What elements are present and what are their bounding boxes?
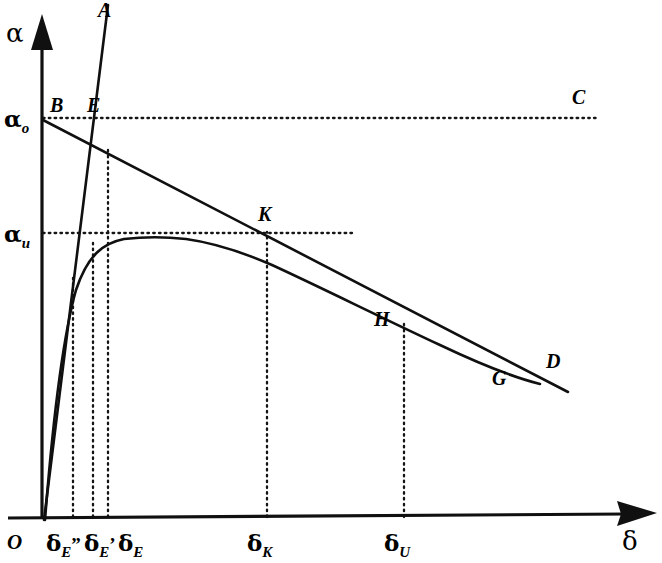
x-tick-delta-E-base: δ xyxy=(118,529,133,556)
x-tick-delta-E-prime-base: δ xyxy=(84,529,99,556)
point-label-G: G xyxy=(492,367,507,389)
y-tick-alpha-0: αo xyxy=(4,105,29,136)
alpha-axis-arrow-icon xyxy=(31,14,53,50)
y-tick-alpha-0-sub: o xyxy=(22,120,30,136)
x-tick-delta-E: δE xyxy=(118,529,143,560)
line-BD-descending xyxy=(43,120,568,392)
x-tick-delta-E-sub: E xyxy=(132,544,143,560)
rising-saturating-curve xyxy=(45,237,540,520)
delta-axis-line xyxy=(8,514,626,518)
point-label-B: B xyxy=(49,94,63,116)
x-tick-delta-E-double-prime-sub: E xyxy=(60,544,71,560)
diagram-svg: α δ O αo αu δE” δE’ δE δK δU A B E C K H… xyxy=(0,0,662,563)
point-label-E: E xyxy=(86,94,100,116)
y-tick-alpha-0-base: α xyxy=(4,105,22,132)
figure-canvas: α δ O αo αu δE” δE’ δE δK δU A B E C K H… xyxy=(0,0,662,563)
line-A-steep xyxy=(44,5,108,520)
point-label-H: H xyxy=(373,308,391,330)
x-tick-delta-E-prime-mark: ’ xyxy=(109,534,115,555)
point-label-A: A xyxy=(96,0,111,21)
x-tick-delta-E-prime-sub: E xyxy=(98,544,109,560)
x-tick-delta-K-sub: K xyxy=(261,544,273,560)
x-tick-delta-K-base: δ xyxy=(247,529,262,556)
x-tick-delta-E-double-prime: δE” xyxy=(46,529,81,560)
alpha-axis-label: α xyxy=(6,18,24,48)
x-tick-delta-E-double-prime-base: δ xyxy=(46,529,61,556)
point-label-D: D xyxy=(545,350,560,372)
y-tick-alpha-u-sub: u xyxy=(22,235,30,251)
delta-axis-arrow-icon xyxy=(617,501,657,526)
x-tick-delta-U: δU xyxy=(384,529,411,560)
x-tick-delta-K: δK xyxy=(247,529,273,560)
y-tick-alpha-u: αu xyxy=(4,220,30,251)
x-tick-delta-E-prime: δE’ xyxy=(84,529,116,560)
x-tick-delta-E-double-prime-mark: ” xyxy=(71,534,81,555)
delta-axis-label: δ xyxy=(622,526,638,556)
origin-label: O xyxy=(7,530,22,554)
x-tick-delta-U-sub: U xyxy=(399,544,411,560)
y-tick-alpha-u-base: α xyxy=(4,220,22,247)
point-label-C: C xyxy=(572,86,586,108)
x-tick-delta-U-base: δ xyxy=(384,529,399,556)
point-label-K: K xyxy=(257,203,273,225)
